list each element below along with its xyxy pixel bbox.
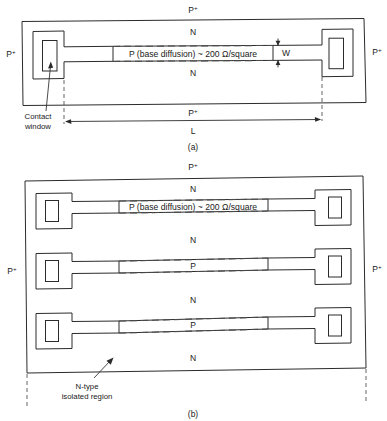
panel-b-right-contact-window-3 <box>329 315 342 336</box>
panel-b-left-contact-window-1 <box>46 201 59 222</box>
diagram-panel-a: P (base diffusion) ~ 200 Ω/square P+ N N… <box>0 0 387 155</box>
panel-a-n-upper-label: N <box>190 27 196 37</box>
panel-b-right-contact-window-1 <box>329 197 342 218</box>
panel-b-top-region-label: P+ <box>188 161 198 172</box>
panel-b-isolation-note-line1: N-type <box>76 382 99 391</box>
panel-a-caption: (a) <box>188 142 199 152</box>
figure-root: P (base diffusion) ~ 200 Ω/square P+ N N… <box>0 0 387 421</box>
panel-b-band-label-5: N <box>190 295 196 305</box>
panel-b-right-region-label: P+ <box>372 263 382 274</box>
panel-b-caption: (b) <box>188 409 199 419</box>
panel-b-left-region-label: P+ <box>7 265 17 276</box>
panel-a-length-label: L <box>191 126 196 136</box>
panel-a-width-label: W <box>282 48 290 58</box>
panel-a-contact-note-line2: window <box>24 122 51 131</box>
panel-b-band-label-6: P <box>190 320 196 330</box>
panel-a-contact-note-line1: Contact <box>25 112 53 121</box>
panel-b-strip-label: P (base diffusion) ~ 200 Ω/square <box>129 202 257 212</box>
panel-b-left-contact-pad-1 <box>36 193 119 229</box>
panel-b-band-label-4: P <box>190 261 196 271</box>
panel-b-isolation-leader <box>94 358 114 379</box>
panel-b-right-contact-pad-1 <box>268 190 351 226</box>
panel-b-right-contact-pad-2 <box>268 249 351 285</box>
panel-a-left-contact-pad <box>33 31 113 79</box>
panel-b-isolation-note-line2: isolated region <box>62 392 113 401</box>
panel-b-left-contact-window-3 <box>46 321 59 342</box>
panel-b-band-label-1: N <box>190 184 196 194</box>
panel-a-dash-upper <box>113 46 273 47</box>
panel-b-left-contact-pad-3 <box>36 313 119 349</box>
panel-a-dash-lower <box>113 61 273 62</box>
panel-a-contact-window-leader <box>46 62 53 112</box>
panel-b-band-label-7: N <box>190 353 196 363</box>
panel-a-left-region-label: P+ <box>6 48 16 59</box>
panel-b-band-label-3: N <box>190 235 196 245</box>
panel-a-right-contact-window <box>329 38 344 68</box>
panel-a-right-region-label: P+ <box>372 46 382 57</box>
panel-a-top-region-label: P+ <box>188 4 198 15</box>
panel-a-bottom-region-label: P+ <box>188 107 198 118</box>
panel-a-n-lower-label: N <box>190 68 196 78</box>
diagram-panel-b: P (base diffusion) ~ 200 Ω/square N N P … <box>0 155 387 421</box>
panel-b-left-contact-window-2 <box>46 261 59 282</box>
panel-a-width-dimension: W <box>276 39 290 68</box>
panel-b-right-contact-window-2 <box>329 256 342 277</box>
panel-a-strip-label: P (base diffusion) ~ 200 Ω/square <box>129 49 257 59</box>
panel-a-length-dimension: L <box>65 117 321 136</box>
panel-b-right-contact-pad-3 <box>268 308 351 344</box>
panel-b-left-contact-pad-2 <box>36 253 119 289</box>
